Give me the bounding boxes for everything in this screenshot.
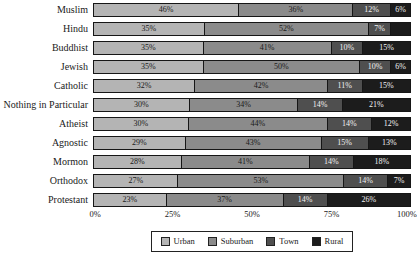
stacked-bar: 35%41%10%15% <box>93 41 411 55</box>
chart-row: Agnostic29%43%15%13% <box>0 136 417 150</box>
chart-row: Muslim46%36%12%6% <box>0 3 417 17</box>
legend-swatch-icon <box>312 237 321 246</box>
bar-segment-rural: 13% <box>369 137 410 149</box>
bar-segment-urban: 29% <box>94 137 186 149</box>
chart-row: Jewish35%50%10%6% <box>0 60 417 74</box>
category-label: Catholic <box>0 79 93 93</box>
bar-segment-urban: 23% <box>94 194 167 206</box>
bar-segment-suburban: 44% <box>189 118 328 130</box>
stacked-bar: 29%43%15%13% <box>93 136 411 150</box>
stacked-bar: 46%36%12%6% <box>93 3 411 17</box>
bar-segment-town: 14% <box>284 194 328 206</box>
stacked-bar: 32%42%11%15% <box>93 79 411 93</box>
bar-segment-urban: 32% <box>94 80 195 92</box>
bar-segment-rural: 7% <box>388 175 410 187</box>
category-label: Muslim <box>0 3 93 17</box>
bar-segment-suburban: 50% <box>204 61 360 73</box>
bar-segment-urban: 35% <box>94 23 205 35</box>
chart-row: Mormon28%41%14%18% <box>0 155 417 169</box>
legend-entry-urban: Urban <box>161 237 195 246</box>
bar-segment-suburban: 37% <box>167 194 284 206</box>
bar-segment-town: 14% <box>344 175 388 187</box>
legend-swatch-icon <box>266 237 275 246</box>
x-axis-tick: 0% <box>90 209 101 219</box>
stacked-bar: 27%53%14%7% <box>93 174 411 188</box>
category-label: Nothing in Particular <box>0 98 93 112</box>
bar-segment-suburban: 43% <box>186 137 322 149</box>
bar-segment-town: 7% <box>369 23 391 35</box>
category-label: Orthodox <box>0 174 93 188</box>
chart-row: Buddhist35%41%10%15% <box>0 41 417 55</box>
bar-segment-town: 12% <box>353 4 391 16</box>
bar-segment-suburban: 53% <box>178 175 344 187</box>
bar-segment-suburban: 36% <box>239 4 353 16</box>
category-label: Buddhist <box>0 41 93 55</box>
bar-segment-rural: 6% <box>391 4 410 16</box>
bar-segment-town: 10% <box>332 42 363 54</box>
category-label: Agnostic <box>0 136 93 150</box>
bar-segment-rural: 15% <box>363 80 410 92</box>
bar-segment-urban: 35% <box>94 42 204 54</box>
category-label: Hindu <box>0 22 93 36</box>
category-label: Protestant <box>0 193 93 207</box>
bar-segment-suburban: 42% <box>195 80 328 92</box>
bar-segment-rural: 26% <box>328 194 410 206</box>
chart-row: Hindu35%52%7% <box>0 22 417 36</box>
bar-segment-suburban: 52% <box>205 23 369 35</box>
bar-segment-urban: 27% <box>94 175 178 187</box>
stacked-bar: 30%34%14%21% <box>93 98 411 112</box>
bar-segment-urban: 28% <box>94 156 182 168</box>
bar-segment-suburban: 41% <box>204 42 332 54</box>
bar-segment-urban: 30% <box>94 118 189 130</box>
bar-segment-town: 11% <box>328 80 363 92</box>
x-axis-tick: 25% <box>165 209 181 219</box>
chart-row: Orthodox27%53%14%7% <box>0 174 417 188</box>
legend-entry-town: Town <box>266 237 298 246</box>
legend-entry-suburban: Suburban <box>208 237 254 246</box>
bar-segment-suburban: 41% <box>182 156 310 168</box>
bar-segment-rural: 21% <box>343 99 410 111</box>
category-label: Atheist <box>0 117 93 131</box>
bar-segment-rural: 18% <box>354 156 410 168</box>
bar-segment-town: 15% <box>322 137 369 149</box>
legend-swatch-icon <box>208 237 217 246</box>
category-label: Mormon <box>0 155 93 169</box>
chart-row: Nothing in Particular30%34%14%21% <box>0 98 417 112</box>
stacked-bar: 23%37%14%26% <box>93 193 411 207</box>
legend: UrbanSuburbanTownRural <box>151 231 354 252</box>
legend-label: Town <box>279 237 298 246</box>
bar-segment-urban: 30% <box>94 99 190 111</box>
legend-label: Rural <box>325 237 344 246</box>
chart-row: Protestant23%37%14%26% <box>0 193 417 207</box>
bar-segment-urban: 35% <box>94 61 204 73</box>
bar-segment-town: 14% <box>298 99 343 111</box>
stacked-bar: 30%44%14%12% <box>93 117 411 131</box>
chart-row: Catholic32%42%11%15% <box>0 79 417 93</box>
stacked-bar: 35%52%7% <box>93 22 411 36</box>
legend-label: Suburban <box>221 237 254 246</box>
chart-row: Atheist30%44%14%12% <box>0 117 417 131</box>
bar-segment-town: 14% <box>328 118 372 130</box>
bar-segment-rural: 15% <box>363 42 410 54</box>
x-axis: 0%25%50%75%100% <box>93 209 411 222</box>
x-axis-tick: 50% <box>244 209 260 219</box>
legend-label: Urban <box>174 237 195 246</box>
bar-segment-rural: 6% <box>391 61 410 73</box>
legend-entry-rural: Rural <box>312 237 344 246</box>
bar-segment-rural <box>391 23 410 35</box>
stacked-bar-chart: Muslim46%36%12%6%Hindu35%52%7%Buddhist35… <box>0 0 417 264</box>
chart-rows: Muslim46%36%12%6%Hindu35%52%7%Buddhist35… <box>0 3 417 207</box>
bar-segment-town: 14% <box>310 156 354 168</box>
bar-segment-town: 10% <box>360 61 391 73</box>
category-label: Jewish <box>0 60 93 74</box>
legend-swatch-icon <box>161 237 170 246</box>
bar-segment-urban: 46% <box>94 4 239 16</box>
bar-segment-suburban: 34% <box>190 99 299 111</box>
stacked-bar: 35%50%10%6% <box>93 60 411 74</box>
legend-wrap: UrbanSuburbanTownRural <box>93 231 411 252</box>
x-axis-tick: 75% <box>324 209 340 219</box>
bar-segment-rural: 12% <box>372 118 410 130</box>
stacked-bar: 28%41%14%18% <box>93 155 411 169</box>
x-axis-tick: 100% <box>397 209 417 219</box>
